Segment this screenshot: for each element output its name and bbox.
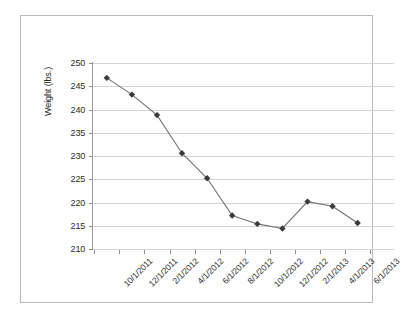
x-tick-mark bbox=[195, 250, 196, 254]
x-tick-label: 4/1/2013 bbox=[346, 256, 376, 286]
y-tick-label: 210 bbox=[49, 245, 85, 254]
y-tick-label: 250 bbox=[49, 59, 85, 68]
x-tick-label: 6/1/2012 bbox=[221, 256, 251, 286]
gridline bbox=[93, 249, 394, 250]
x-tick-mark bbox=[270, 250, 271, 254]
series-line bbox=[107, 78, 358, 229]
x-tick-mark bbox=[220, 250, 221, 254]
x-tick-mark bbox=[320, 250, 321, 254]
data-point-marker bbox=[254, 221, 260, 227]
x-tick-mark bbox=[119, 250, 120, 254]
data-point-marker bbox=[354, 220, 360, 226]
y-tick-label: 245 bbox=[49, 82, 85, 91]
y-tick-label: 235 bbox=[49, 129, 85, 138]
y-tick-label: 220 bbox=[49, 199, 85, 208]
data-point-marker bbox=[329, 203, 335, 209]
x-tick-mark bbox=[94, 250, 95, 254]
x-tick-mark bbox=[370, 250, 371, 254]
x-tick-mark bbox=[295, 250, 296, 254]
plot-area bbox=[93, 63, 394, 249]
x-tick-mark bbox=[345, 250, 346, 254]
y-tick-label: 215 bbox=[49, 222, 85, 231]
y-tick-label: 225 bbox=[49, 175, 85, 184]
x-tick-mark bbox=[170, 250, 171, 254]
x-tick-label: 6/1/2013 bbox=[371, 256, 401, 286]
data-point-marker bbox=[229, 212, 235, 218]
weight-series bbox=[93, 63, 394, 249]
x-tick-mark bbox=[144, 250, 145, 254]
y-tick-label: 230 bbox=[49, 152, 85, 161]
x-tick-mark bbox=[245, 250, 246, 254]
data-point-marker bbox=[104, 75, 110, 81]
chart-container: Weight (lbs.) 21021522022523023524024525… bbox=[20, 15, 373, 303]
y-tick-label: 240 bbox=[49, 106, 85, 115]
x-tick-label: 4/1/2012 bbox=[195, 256, 225, 286]
